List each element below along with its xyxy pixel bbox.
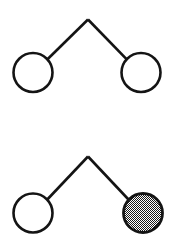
node-bottom-right-shaded[interactable]: [124, 194, 163, 233]
figure-canvas: [0, 0, 177, 239]
node-top-right[interactable]: [122, 53, 161, 92]
node-top-left[interactable]: [14, 53, 53, 92]
node-bottom-left[interactable]: [14, 194, 53, 233]
